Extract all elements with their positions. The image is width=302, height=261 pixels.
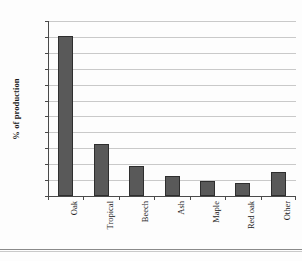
bar-beech — [129, 166, 144, 196]
y-axis-title: % of production — [11, 54, 21, 164]
gridline — [48, 69, 296, 70]
gridline — [48, 37, 296, 38]
gridline — [48, 132, 296, 133]
bar-chart-figure: % of production 0510152025303540455055 O… — [0, 0, 302, 261]
bar-oak — [58, 36, 73, 196]
gridline — [48, 101, 296, 102]
y-axis-tick-mark — [45, 180, 48, 181]
x-axis-tick-mark — [295, 196, 296, 200]
gridline — [48, 116, 296, 117]
x-axis-tick-label: Beech — [140, 201, 150, 222]
x-axis-tick-mark — [190, 196, 191, 200]
bar-ash — [165, 176, 180, 196]
y-axis-tick-mark — [45, 196, 48, 197]
x-axis-tick-mark — [154, 196, 155, 200]
x-axis-tick-mark — [225, 196, 226, 200]
plot-area — [48, 21, 296, 196]
x-axis-tick-label: Tropical — [105, 201, 115, 230]
y-axis-tick-mark — [45, 116, 48, 117]
x-axis-tick-mark — [119, 196, 120, 200]
y-axis-tick-mark — [45, 21, 48, 22]
bar-tropical — [94, 144, 109, 197]
page-separator-rule — [0, 249, 302, 250]
x-axis-tick-label: Red oak — [246, 201, 256, 229]
x-axis-tick-mark — [83, 196, 84, 200]
gridline — [48, 53, 296, 54]
x-axis-tick-mark — [261, 196, 262, 200]
y-axis-tick-mark — [45, 164, 48, 165]
bar-other — [271, 172, 286, 196]
y-axis-tick-mark — [45, 148, 48, 149]
y-axis-tick-mark — [45, 101, 48, 102]
x-axis-tick-label: Maple — [211, 201, 221, 223]
y-axis-line — [48, 21, 49, 197]
x-axis-tick-label: Ash — [176, 201, 186, 215]
y-axis-tick-mark — [45, 85, 48, 86]
gridline — [48, 85, 296, 86]
page-separator-rule-secondary — [0, 251, 302, 252]
y-axis-tick-mark — [45, 37, 48, 38]
bar-maple — [200, 181, 215, 196]
y-axis-tick-mark — [45, 69, 48, 70]
x-axis-tick-label: Other — [282, 201, 292, 220]
gridline — [48, 148, 296, 149]
y-axis-tick-mark — [45, 132, 48, 133]
x-axis-tick-label: Oak — [69, 201, 79, 215]
bar-red-oak — [235, 183, 250, 196]
gridline — [48, 164, 296, 165]
y-axis-tick-mark — [45, 53, 48, 54]
gridline — [48, 21, 296, 22]
x-axis-tick-mark — [48, 196, 49, 200]
